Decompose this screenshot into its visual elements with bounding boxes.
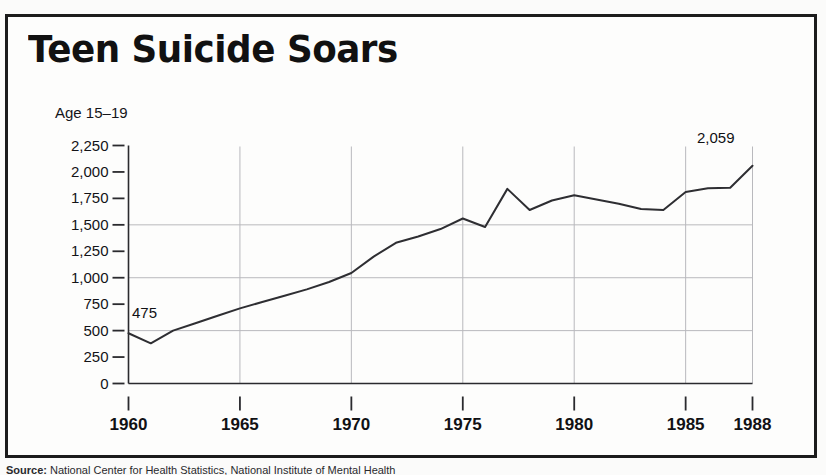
chart-axes bbox=[129, 146, 753, 384]
source-note: Source: National Center for Health Stati… bbox=[6, 464, 826, 475]
chart-plot-area: 2,2502,0001,7501,5001,2501,0007505002500… bbox=[0, 0, 826, 475]
y-axis-tick-label: 500 bbox=[47, 323, 109, 338]
x-axis-tick-label: 1970 bbox=[332, 416, 370, 434]
y-axis-tick-label: 1,000 bbox=[47, 270, 109, 285]
x-axis-tick-label: 1975 bbox=[444, 416, 482, 434]
source-label: Source: bbox=[6, 464, 47, 475]
y-axis-tick-label: 250 bbox=[47, 349, 109, 364]
source-text: National Center for Health Statistics, N… bbox=[50, 464, 395, 475]
vertical-gridlines bbox=[129, 147, 753, 384]
x-axis-tick-label: 1988 bbox=[734, 416, 772, 434]
y-axis-tick-label: 2,250 bbox=[47, 138, 109, 153]
y-axis-tick-label: 1,250 bbox=[47, 243, 109, 258]
x-axis-tick-label: 1980 bbox=[555, 416, 593, 434]
y-axis-tick-label: 0 bbox=[47, 376, 109, 391]
x-axis-tick-label: 1985 bbox=[667, 416, 705, 434]
y-axis-tick-label: 1,500 bbox=[47, 217, 109, 232]
y-axis-tick-marks bbox=[113, 146, 125, 384]
x-axis-tick-label: 1965 bbox=[221, 416, 259, 434]
scanned-page: Teen Suicide Soars Age 15–19 2,2502,0001… bbox=[0, 0, 826, 475]
x-axis-tick-label: 1960 bbox=[110, 416, 148, 434]
line-chart-svg bbox=[0, 0, 826, 475]
data-label-end: 2,059 bbox=[697, 130, 735, 146]
y-axis-tick-label: 750 bbox=[47, 296, 109, 311]
y-axis-tick-label: 1,750 bbox=[47, 190, 109, 205]
y-axis-tick-label: 2,000 bbox=[47, 164, 109, 179]
x-axis-tick-marks bbox=[129, 397, 753, 411]
data-label-start: 475 bbox=[132, 305, 157, 321]
data-series-line bbox=[129, 166, 753, 344]
